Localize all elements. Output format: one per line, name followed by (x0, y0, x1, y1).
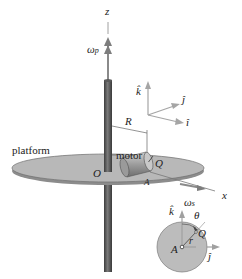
omega-s-label: ωs (184, 197, 195, 208)
r-dimension-label: R (125, 116, 132, 127)
point-q-marker (195, 231, 198, 234)
z-axis-label: z (105, 6, 109, 17)
k-hat-label: k̂ (136, 86, 141, 97)
point-q-detail-label: Q (198, 228, 206, 239)
z-axis (104, 22, 112, 80)
j-hat-detail-arrow-icon (212, 244, 220, 250)
point-a-detail-label: A (171, 244, 178, 255)
x-axis-label: x (222, 190, 227, 201)
j-hat-arrow-icon (171, 103, 180, 109)
k-hat-arrow-icon (145, 81, 151, 89)
unit-vector-triad-top (145, 81, 184, 125)
omega-s-subscript: s (192, 199, 195, 208)
j-hat-label: ĵ (182, 94, 185, 105)
r-radius-label: r (189, 236, 193, 246)
omega-s-symbol: ω (184, 196, 192, 208)
omega-p-symbol: ω (87, 43, 95, 55)
point-q-label: Q (155, 158, 163, 169)
motor-label: motor (116, 150, 142, 161)
j-hat-detail-label: ĵ (208, 251, 211, 262)
theta-label: θ (194, 210, 199, 221)
omega-p-label: ωp (87, 44, 99, 55)
omega-p-arrowhead-icon (104, 45, 112, 54)
k-hat-detail-label: k̂ (169, 206, 174, 217)
point-a-marker (180, 245, 184, 249)
origin-o-label: O (93, 168, 101, 179)
k-hat-detail-arrow-icon (179, 210, 185, 218)
shaft-lower (104, 178, 112, 272)
platform-label: platform (12, 145, 50, 156)
omega-p-arrowhead-icon (104, 37, 112, 46)
shaft-upper (104, 79, 112, 172)
omega-p-subscript: p (95, 46, 99, 55)
point-a-label: A (144, 178, 150, 187)
i-hat-arrow-icon (175, 118, 184, 125)
i-hat-label: î (186, 117, 189, 128)
